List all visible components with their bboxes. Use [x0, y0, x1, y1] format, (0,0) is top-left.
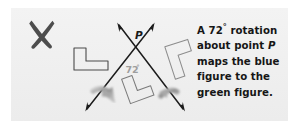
caption-line-2: about point P — [197, 38, 288, 53]
angle-label: 72 ° — [126, 63, 140, 75]
caption-line-3: maps the blue — [197, 54, 288, 69]
illustration-root: P 72 ° — [0, 0, 299, 135]
blue-L-figure — [74, 48, 108, 70]
arrowhead-down-left — [85, 102, 90, 112]
x-mark-icon — [29, 21, 54, 49]
caption-line-4: figure to the — [197, 69, 288, 84]
green-L-figure — [165, 39, 198, 79]
caption-line-5: green figure. — [197, 85, 288, 100]
svg-text:°: ° — [137, 63, 140, 70]
intermediate-L-figure — [122, 71, 154, 104]
caption-line-1: A 72° rotation — [197, 23, 288, 38]
ray-line-a — [87, 25, 153, 109]
point-p-inline-label: P — [268, 40, 276, 51]
point-p-label: P — [135, 29, 143, 41]
arrowhead-up-right — [149, 23, 154, 32]
arrowhead-up-left — [117, 23, 123, 32]
illustration-panel: P 72 ° — [11, 8, 288, 121]
caption-text: A 72° rotation about point P maps the bl… — [197, 23, 288, 100]
arrowhead-down-right — [180, 102, 186, 112]
curved-arrow-left — [93, 88, 112, 98]
